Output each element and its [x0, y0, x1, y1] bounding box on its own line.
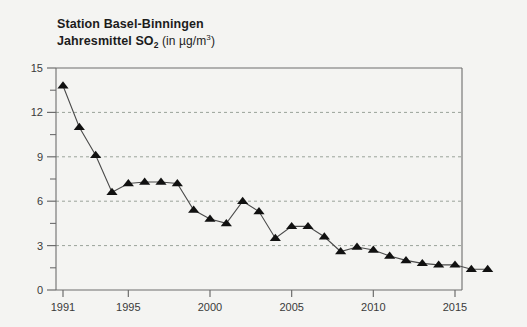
y-axis-label: 9 [37, 151, 43, 163]
data-point-marker [237, 197, 248, 204]
data-point-marker [155, 177, 166, 184]
data-series-markers [57, 81, 493, 272]
data-point-marker [319, 232, 330, 239]
x-axis-ticks [63, 290, 455, 297]
data-point-marker [57, 81, 68, 88]
data-point-marker [139, 177, 150, 184]
data-point-marker [449, 260, 460, 267]
x-axis-label: 1995 [116, 301, 140, 313]
x-axis-labels: 199119952000200520102015 [51, 301, 467, 313]
y-axis-label: 3 [37, 240, 43, 252]
data-point-marker [188, 206, 199, 213]
y-axis-ticks [47, 68, 56, 290]
gridlines [56, 112, 462, 245]
x-axis-label: 2005 [279, 301, 303, 313]
data-point-marker [204, 214, 215, 221]
data-point-marker [74, 123, 85, 130]
y-axis-label: 15 [31, 62, 43, 74]
plot-area: 03691215 199119952000200520102015 [0, 0, 527, 327]
plot-frame [56, 68, 462, 290]
data-series-line [63, 86, 488, 270]
x-axis-label: 2000 [198, 301, 222, 313]
y-axis-label: 6 [37, 195, 43, 207]
x-axis-label: 2010 [361, 301, 385, 313]
data-point-marker [106, 188, 117, 195]
data-point-marker [351, 243, 362, 250]
data-point-marker [286, 222, 297, 229]
y-axis-label: 12 [31, 106, 43, 118]
data-point-marker [482, 265, 493, 272]
chart-figure: Station Basel-Binningen Jahresmittel SO2… [0, 0, 527, 327]
data-point-marker [90, 151, 101, 158]
data-point-marker [253, 207, 264, 214]
chart-svg: 03691215 199119952000200520102015 [0, 0, 527, 327]
y-axis-label: 0 [37, 284, 43, 296]
y-axis-labels: 03691215 [31, 62, 43, 296]
series-polyline [63, 86, 488, 270]
x-axis-label: 2015 [443, 301, 467, 313]
data-point-marker [302, 222, 313, 229]
x-axis-label: 1991 [51, 301, 75, 313]
